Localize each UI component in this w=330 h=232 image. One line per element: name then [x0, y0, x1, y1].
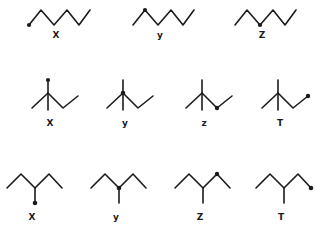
carbon-chain-path [133, 10, 194, 25]
structure-row2-t [258, 76, 316, 116]
figure-canvas: X y Z X y [0, 0, 330, 232]
radical-dot [215, 106, 219, 110]
structure-row1-z [230, 4, 298, 30]
structure-row2-z [182, 76, 240, 116]
radical-dot [309, 186, 314, 191]
structure-label-row1-z: Z [250, 30, 274, 40]
carbon-chain-path [7, 174, 62, 188]
structure-label-row3-x: X [20, 212, 44, 222]
structure-label-row3-z: Z [188, 212, 212, 222]
structure-row2-y [103, 76, 161, 116]
radical-dot [143, 8, 147, 12]
carbon-chain-path [32, 93, 78, 108]
structure-row3-y [88, 160, 150, 208]
radical-dot [117, 186, 122, 191]
structure-label-row2-t: T [268, 118, 292, 128]
radical-dot [121, 91, 126, 96]
carbon-chain-path [256, 174, 311, 188]
structure-label-row2-z: z [192, 118, 216, 128]
radical-dot [258, 23, 262, 27]
structure-label-row3-y: y [104, 212, 128, 222]
radical-dot [33, 201, 38, 206]
carbon-chain-path [235, 10, 296, 25]
structure-row3-z [172, 160, 234, 208]
carbon-chain-path [29, 10, 90, 25]
structure-label-row2-x: X [38, 118, 62, 128]
carbon-chain-path [107, 93, 153, 108]
carbon-chain-path [175, 174, 230, 188]
structure-label-row3-t: T [269, 212, 293, 222]
radical-dot [27, 23, 31, 27]
structure-row3-t [253, 160, 315, 208]
structure-label-row1-x: X [44, 30, 68, 40]
structure-row3-x [4, 160, 66, 208]
carbon-chain-path [262, 93, 308, 108]
radical-dot [306, 94, 310, 98]
structure-label-row1-y: y [148, 30, 172, 40]
carbon-chain-path [186, 93, 232, 108]
structure-row2-x [28, 76, 86, 116]
radical-dot [215, 172, 219, 176]
structure-label-row2-y: y [113, 118, 137, 128]
structure-row1-y [128, 4, 196, 30]
structure-row1-x [24, 4, 92, 30]
radical-dot [46, 78, 50, 82]
